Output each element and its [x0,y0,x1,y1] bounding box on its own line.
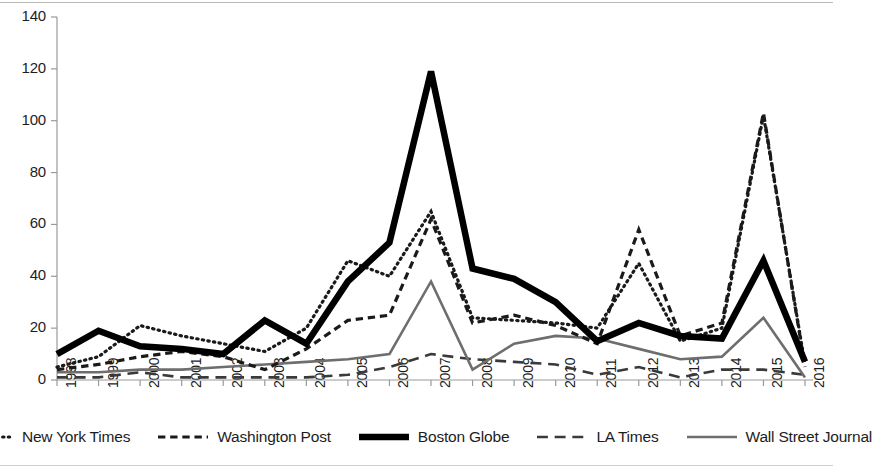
dashed-line-swatch [156,430,210,444]
legend-item[interactable]: Wall Street Journal [685,428,872,446]
thin-solid-line-swatch [535,430,589,444]
gray-solid-line-swatch [685,430,739,444]
legend-label: Wall Street Journal [746,428,872,446]
legend-label: New York Times [22,428,130,446]
legend-item[interactable]: Boston Globe [357,428,510,446]
legend-item[interactable]: LA Times [535,428,658,446]
legend-label: Washington Post [217,428,331,446]
series-line [57,281,805,377]
series-line [57,116,805,368]
legend-item[interactable]: Washington Post [156,428,331,446]
legend-label: Boston Globe [418,428,510,446]
thick-solid-line-swatch [357,430,411,444]
dotted-line-swatch [0,430,15,444]
series-line [57,113,805,370]
legend-item[interactable]: New York Times [0,428,130,446]
legend-label: LA Times [596,428,658,446]
chart-legend: New York TimesWashington PostBoston Glob… [0,428,833,446]
